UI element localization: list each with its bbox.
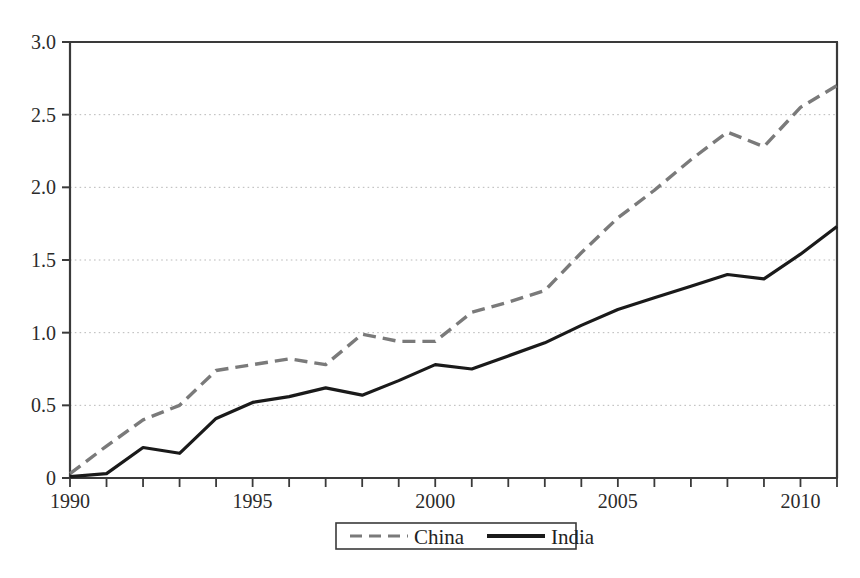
legend-label-india: India [551, 525, 595, 549]
chart-legend: ChinaIndia [336, 523, 595, 549]
y-tick-label: 0.5 [31, 394, 56, 416]
line-chart: 19901995200020052010 00.51.01.52.02.53.0… [0, 0, 860, 578]
y-tick-label: 3.0 [31, 31, 56, 53]
y-tick-label: 1.5 [31, 249, 56, 271]
x-tick-label: 2005 [598, 490, 638, 512]
x-tick-label: 1995 [233, 490, 273, 512]
y-tick-label: 2.5 [31, 104, 56, 126]
x-tick-label: 1990 [50, 490, 90, 512]
y-tick-label: 1.0 [31, 322, 56, 344]
x-tick-label: 2000 [415, 490, 455, 512]
y-tick-label: 2.0 [31, 176, 56, 198]
y-tick-label: 0 [46, 467, 56, 489]
legend-label-china: China [414, 525, 465, 549]
chart-figure: 19901995200020052010 00.51.01.52.02.53.0… [0, 0, 860, 578]
x-tick-label: 2010 [780, 490, 820, 512]
